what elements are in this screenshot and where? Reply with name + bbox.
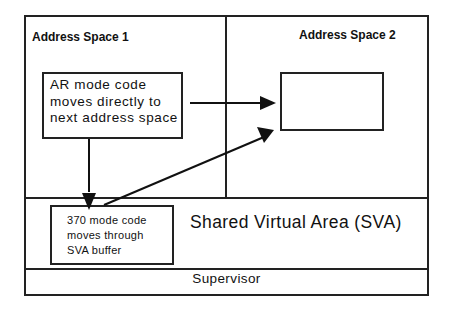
arrowhead-icon bbox=[82, 193, 96, 210]
flow-arrows bbox=[0, 0, 450, 310]
arrowhead-icon bbox=[257, 127, 274, 143]
arrow-ar-to-target bbox=[190, 96, 276, 110]
arrow-370-to-target bbox=[104, 127, 274, 205]
arrow-ar-down-to-370 bbox=[82, 139, 96, 210]
arrowhead-icon bbox=[260, 96, 276, 110]
